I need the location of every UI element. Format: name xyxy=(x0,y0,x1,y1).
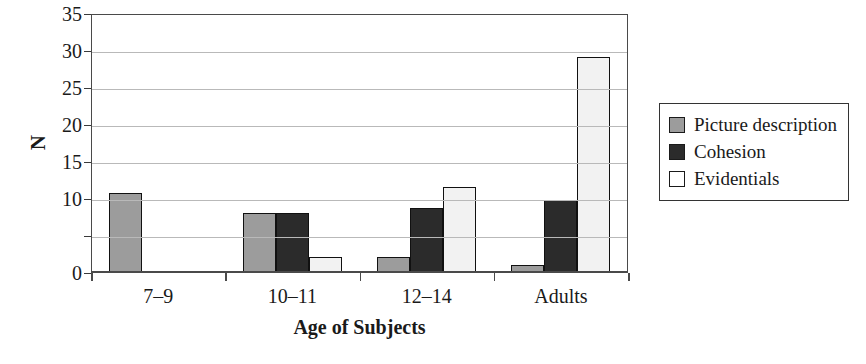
gridline-15 xyxy=(92,163,627,164)
gridline-30 xyxy=(92,52,627,53)
y-tick-label-35: 35 xyxy=(30,4,82,24)
bar-group xyxy=(226,15,360,272)
bar-group xyxy=(493,15,627,272)
chart-figure: N 0101520253035 7–910–1112–14Adults Age … xyxy=(0,0,866,364)
bar xyxy=(276,213,309,272)
bar xyxy=(109,193,142,272)
y-tick-mark-35 xyxy=(84,14,91,15)
y-tick-label-20: 20 xyxy=(30,115,82,135)
x-tick-label: 7–9 xyxy=(91,283,225,311)
legend-swatch-icon xyxy=(669,171,685,187)
y-tick-mark-5 xyxy=(84,236,91,237)
x-tick-mark xyxy=(360,273,362,281)
x-tick-label: Adults xyxy=(494,283,628,311)
bar-group xyxy=(92,15,226,272)
x-tick-mark xyxy=(494,273,496,281)
y-tick-label-30: 30 xyxy=(30,41,82,61)
x-tick-label: 10–11 xyxy=(225,283,359,311)
bar-cluster xyxy=(360,15,494,272)
bar-cluster xyxy=(226,15,360,272)
legend-label: Picture description xyxy=(694,115,837,134)
y-tick-mark-15 xyxy=(84,162,91,163)
legend-label: Evidentials xyxy=(694,169,779,188)
y-axis-tick-labels: 0101520253035 xyxy=(30,0,82,290)
y-tick-mark-10 xyxy=(84,199,91,200)
bar-cluster xyxy=(92,15,226,272)
bar-cluster xyxy=(493,15,627,272)
x-tick-mark xyxy=(628,273,630,281)
legend-label: Cohesion xyxy=(694,142,766,161)
bar-groups xyxy=(92,15,627,272)
gridline-25 xyxy=(92,89,627,90)
y-tick-label-0: 0 xyxy=(30,263,82,283)
x-tick-mark xyxy=(91,273,93,281)
x-axis-title: Age of Subjects xyxy=(91,316,628,339)
y-tick-mark-25 xyxy=(84,88,91,89)
x-tick-label: 12–14 xyxy=(360,283,494,311)
bar xyxy=(243,213,276,272)
x-axis-tick-labels: 7–910–1112–14Adults xyxy=(91,283,628,311)
legend-swatch-icon xyxy=(669,144,685,160)
y-tick-mark-0 xyxy=(84,273,91,274)
y-tick-label-25: 25 xyxy=(30,78,82,98)
legend-item[interactable]: Picture description xyxy=(669,111,839,138)
bar xyxy=(410,208,443,272)
bar-group xyxy=(360,15,494,272)
gridline-5 xyxy=(92,237,627,238)
gridline-10 xyxy=(92,200,627,201)
plot-area xyxy=(91,14,628,273)
gridline-20 xyxy=(92,126,627,127)
y-tick-mark-20 xyxy=(84,125,91,126)
x-axis-line xyxy=(92,271,627,273)
x-tick-mark xyxy=(225,273,227,281)
y-tick-label-15: 15 xyxy=(30,152,82,172)
y-tick-label-10: 10 xyxy=(30,189,82,209)
legend-item[interactable]: Evidentials xyxy=(669,165,839,192)
chart-legend: Picture descriptionCohesionEvidentials xyxy=(659,103,849,201)
legend-swatch-icon xyxy=(669,117,685,133)
y-tick-mark-30 xyxy=(84,51,91,52)
legend-item[interactable]: Cohesion xyxy=(669,138,839,165)
